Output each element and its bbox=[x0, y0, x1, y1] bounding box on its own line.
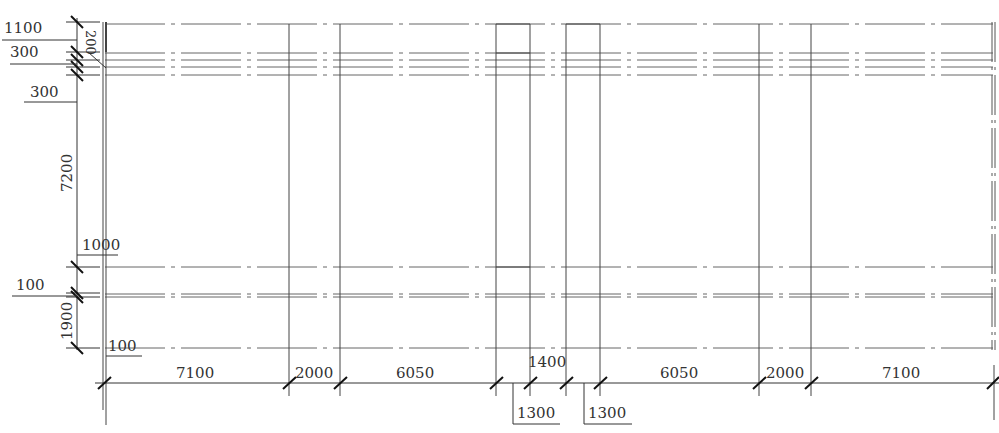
dim-label-1400: 1400 bbox=[528, 353, 566, 371]
dim-label-7100-right: 7100 bbox=[882, 364, 920, 382]
dim-label-1300-left: 1300 bbox=[517, 404, 555, 422]
dim-label-200: 200 bbox=[83, 30, 98, 55]
vertical-grid-lines bbox=[289, 24, 811, 396]
dim-label-2000-right: 2000 bbox=[766, 364, 804, 382]
dim-label-1100: 1100 bbox=[4, 19, 42, 37]
dim-label-100-a: 100 bbox=[16, 276, 45, 294]
dim-label-300-a: 300 bbox=[10, 43, 39, 61]
cad-drawing-canvas: 1100 300 300 200 7200 1000 100 1900 100 … bbox=[0, 0, 999, 433]
dim-label-7100-left: 7100 bbox=[176, 364, 214, 382]
dim-label-1900: 1900 bbox=[58, 302, 76, 340]
dim-label-100-b: 100 bbox=[108, 337, 137, 355]
dim-label-1300-right: 1300 bbox=[588, 404, 626, 422]
dim-label-7200: 7200 bbox=[58, 154, 76, 192]
dim-label-2000-left: 2000 bbox=[295, 364, 333, 382]
dim-label-300-b: 300 bbox=[30, 83, 59, 101]
dim-label-6050-right: 6050 bbox=[660, 364, 698, 382]
right-wall bbox=[992, 22, 995, 350]
dim-label-6050-left: 6050 bbox=[396, 364, 434, 382]
dim-label-1000: 1000 bbox=[82, 236, 120, 254]
left-wall bbox=[103, 22, 106, 425]
horizontal-grid-lines bbox=[105, 24, 993, 348]
